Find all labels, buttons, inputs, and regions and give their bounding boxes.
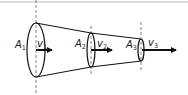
area-label-a1: A1: [14, 39, 26, 52]
area-label-a3: A3: [125, 39, 137, 52]
area-label-a2: A2: [74, 38, 86, 51]
tapered-pipe-diagram: A1 v1 A2 v2 A3 v3: [0, 0, 188, 95]
velocity-label-v3: v3: [148, 37, 158, 50]
